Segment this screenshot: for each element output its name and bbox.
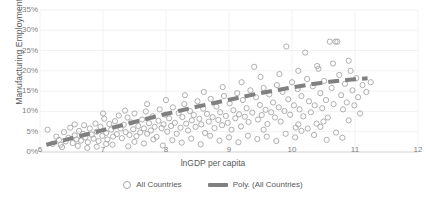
x-axis-title: lnGDP per capita xyxy=(0,158,426,168)
x-tick-label: 11 xyxy=(340,145,370,154)
scatter-chart: Manufacturing Employment Share 0%5%10%15… xyxy=(0,0,426,209)
x-tick-label: 12 xyxy=(403,145,426,154)
scatter-points xyxy=(45,39,373,150)
x-tick-label: 8 xyxy=(151,145,181,154)
plot-area xyxy=(0,0,426,209)
legend-label-all-countries: All Countries xyxy=(136,180,181,189)
legend-item-all-countries: All Countries xyxy=(123,180,181,189)
x-tick-label: 7 xyxy=(88,145,118,154)
dashed-line-icon xyxy=(208,183,228,187)
legend-label-poly-trend: Poly. (All Countries) xyxy=(233,180,303,189)
x-tick-label: 10 xyxy=(277,145,307,154)
x-tick-label: 6 xyxy=(25,145,55,154)
open-circle-icon xyxy=(123,181,131,189)
x-tick-label: 9 xyxy=(214,145,244,154)
legend-item-poly-trend: Poly. (All Countries) xyxy=(208,180,303,189)
chart-legend: All Countries Poly. (All Countries) xyxy=(0,180,426,189)
